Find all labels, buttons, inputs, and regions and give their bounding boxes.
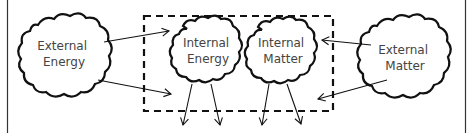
- arrow-int-energy-out-1: [183, 84, 192, 125]
- cloud-internal-matter: [245, 17, 317, 84]
- arrow-ext-energy-to-system-lower: [98, 80, 171, 94]
- diagram-canvas: External Energy Internal Energy Internal…: [0, 0, 474, 133]
- arrow-ext-energy-to-int-energy: [104, 31, 169, 42]
- arrow-int-matter-out-1: [262, 84, 269, 125]
- arrow-int-energy-out-2: [211, 84, 220, 125]
- arrow-int-matter-out-2: [287, 84, 301, 124]
